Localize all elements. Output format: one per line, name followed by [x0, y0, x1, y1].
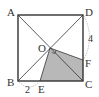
label-E: E [38, 83, 45, 95]
measure-DF: 4 [88, 33, 93, 44]
label-A: A [7, 6, 15, 18]
geometry-diagram: A D B C O E F 4 2 [0, 0, 99, 97]
label-B: B [7, 76, 14, 88]
label-O: O [38, 42, 46, 54]
shaded-region-OECF [40, 48, 83, 81]
label-D: D [85, 6, 93, 18]
label-C: C [85, 78, 92, 90]
label-F: F [85, 57, 91, 69]
measure-BE: 2 [25, 84, 30, 95]
